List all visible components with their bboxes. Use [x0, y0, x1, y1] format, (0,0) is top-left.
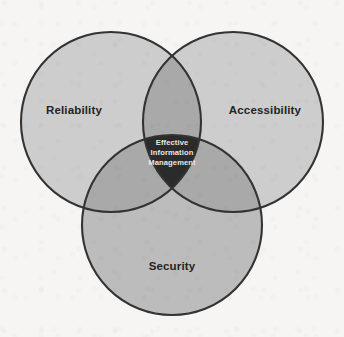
venn-diagram: Reliability Accessibility Security Effec… — [0, 0, 344, 337]
center-label-line-3: Management — [148, 158, 196, 167]
center-label-line-1: Effective — [156, 138, 189, 147]
venn-diagram-canvas: Reliability Accessibility Security Effec… — [0, 0, 344, 337]
center-label-line-2: Information — [151, 148, 194, 157]
set-label-accessibility: Accessibility — [229, 104, 302, 116]
set-label-reliability: Reliability — [46, 104, 102, 116]
set-label-security: Security — [149, 260, 196, 272]
